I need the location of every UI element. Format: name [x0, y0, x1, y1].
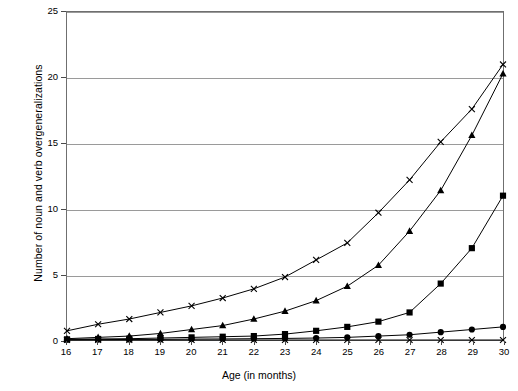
y-axis-tick-label: 25: [32, 6, 58, 15]
x-axis-tick-mark: [254, 341, 255, 345]
data-point-marker-circle: [469, 326, 475, 332]
x-axis-tick-label: 30: [489, 346, 518, 357]
data-point-marker-square: [500, 193, 506, 199]
data-point-marker-x: [313, 257, 319, 263]
x-axis-tick-mark: [222, 341, 223, 345]
x-axis-tick-mark: [441, 341, 442, 345]
series-layer: [67, 12, 503, 340]
y-axis-tick-label: 20: [32, 72, 58, 81]
x-axis-tick-mark: [504, 341, 505, 345]
chart-container: Number of noun and verb overgeneralizati…: [0, 0, 518, 391]
y-axis-tick-label: 0: [32, 336, 58, 345]
x-axis-tick-mark: [379, 341, 380, 345]
x-axis-tick-label: 18: [114, 346, 144, 357]
data-point-marker-circle: [500, 324, 506, 330]
y-axis-tick-label: 10: [32, 204, 58, 213]
data-point-marker-x: [438, 139, 444, 145]
x-axis-tick-label: 20: [176, 346, 206, 357]
x-axis-tick-mark: [129, 341, 130, 345]
data-point-marker-triangle: [437, 187, 444, 194]
data-point-marker-triangle: [468, 132, 475, 139]
x-axis-tick-label: 19: [145, 346, 175, 357]
data-point-marker-x: [500, 61, 506, 67]
x-axis-tick-mark: [348, 341, 349, 345]
x-axis-tick-label: 27: [395, 346, 425, 357]
x-axis-tick-mark: [410, 341, 411, 345]
x-axis-tick-mark: [316, 341, 317, 345]
data-point-marker-triangle: [313, 297, 320, 304]
data-point-marker-square: [375, 319, 381, 325]
data-point-marker-x: [375, 210, 381, 216]
data-point-marker-square: [469, 245, 475, 251]
data-point-marker-square: [344, 324, 350, 330]
x-axis-tick-mark: [473, 341, 474, 345]
x-axis-tick-mark: [97, 341, 98, 345]
data-point-marker-x: [220, 295, 226, 301]
data-point-marker-circle: [438, 329, 444, 335]
x-axis-tick-label: 25: [333, 346, 363, 357]
data-point-marker-circle: [406, 332, 412, 338]
data-point-marker-x: [469, 106, 475, 112]
x-axis-tick-label: 29: [458, 346, 488, 357]
series-cross-upper: [64, 61, 506, 333]
x-axis-tick-label: 21: [207, 346, 237, 357]
data-point-marker-triangle: [344, 282, 351, 289]
x-axis-title: Age (in months): [0, 369, 518, 381]
y-axis-tick-label: 15: [32, 138, 58, 147]
data-point-marker-square: [406, 309, 412, 315]
x-axis-tick-label: 17: [82, 346, 112, 357]
y-axis-tick-label: 5: [32, 270, 58, 279]
series-triangle: [63, 70, 506, 342]
data-point-marker-triangle: [499, 70, 506, 77]
x-axis-tick-mark: [285, 341, 286, 345]
x-axis-tick-mark: [191, 341, 192, 345]
data-point-marker-x: [282, 274, 288, 280]
x-axis-tick-label: 24: [301, 346, 331, 357]
x-axis-tick-label: 23: [270, 346, 300, 357]
data-point-marker-square: [438, 281, 444, 287]
x-axis-tick-mark: [160, 341, 161, 345]
x-axis-tick-label: 22: [239, 346, 269, 357]
data-point-marker-square: [313, 328, 319, 334]
plot-area: [66, 11, 504, 341]
x-axis-tick-mark: [66, 341, 67, 345]
x-axis-tick-label: 26: [364, 346, 394, 357]
data-point-marker-x: [407, 177, 413, 183]
data-point-marker-x: [344, 240, 350, 246]
x-axis-tick-label: 16: [51, 346, 81, 357]
x-axis-tick-label: 28: [426, 346, 456, 357]
data-point-marker-x: [251, 286, 257, 292]
